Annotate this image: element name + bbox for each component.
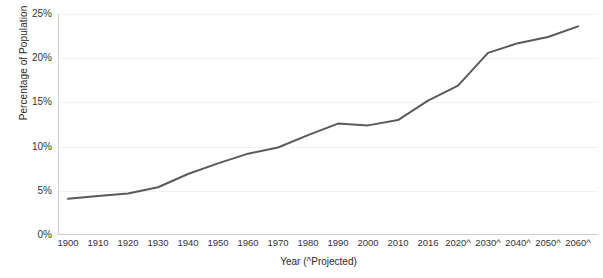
- x-axis-tick-label: 2010: [387, 238, 408, 248]
- y-axis-title: Percentage of Population: [18, 0, 32, 158]
- x-axis-tick-label: 1990: [327, 238, 348, 248]
- series-line: [58, 14, 598, 235]
- y-axis-tick-label: 25%: [8, 9, 52, 19]
- y-axis-tick-label: 10%: [8, 142, 52, 152]
- x-axis-tick-label: 1970: [267, 238, 288, 248]
- x-axis-tick-label: 1920: [117, 238, 138, 248]
- line-chart: Percentage of Population 0%5%10%15%20%25…: [0, 0, 603, 278]
- y-axis-tick-label: 5%: [8, 186, 52, 196]
- x-axis-tick-label: 2020^: [445, 238, 471, 248]
- x-axis-tick-label: 1960: [237, 238, 258, 248]
- x-axis-title: Year (^Projected): [58, 256, 579, 267]
- y-axis-tick-label: 20%: [8, 53, 52, 63]
- series-polyline: [68, 26, 578, 198]
- x-axis-tick-label: 1900: [57, 238, 78, 248]
- y-axis-tick-label: 15%: [8, 97, 52, 107]
- x-axis-tick-label: 2016: [417, 238, 438, 248]
- x-axis-tick-label: 2060^: [565, 238, 591, 248]
- x-axis-tick-label: 1940: [177, 238, 198, 248]
- x-axis-tick-label: 1980: [297, 238, 318, 248]
- x-axis-tick-label: 2040^: [505, 238, 531, 248]
- x-axis-tick-label: 2050^: [535, 238, 561, 248]
- plot-area: [58, 14, 598, 235]
- y-axis-tick-label: 0%: [8, 230, 52, 240]
- x-axis-tick-label: 2030^: [475, 238, 501, 248]
- x-axis-tick-label: 1910: [87, 238, 108, 248]
- clipped-chart-title: [0, 0, 603, 7]
- x-axis-tick-label: 2000: [357, 238, 378, 248]
- x-axis-tick-label: 1930: [147, 238, 168, 248]
- x-axis-tick-label: 1950: [207, 238, 228, 248]
